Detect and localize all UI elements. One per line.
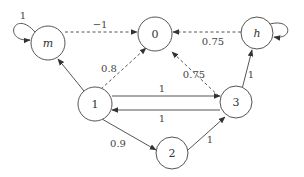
svg-text:1: 1 xyxy=(92,98,99,111)
edge-1-to-m xyxy=(58,59,84,91)
svg-text:2: 2 xyxy=(169,147,176,160)
node-1: 1 xyxy=(78,87,112,121)
svg-text:0: 0 xyxy=(152,28,159,41)
edge-label-1-to-2: 0.9 xyxy=(110,138,126,149)
svg-text:3: 3 xyxy=(233,96,240,109)
edge-label-1-to-0: 0.8 xyxy=(101,63,117,74)
svg-text:h: h xyxy=(253,27,260,40)
node-m: m xyxy=(31,26,65,60)
node-0: 0 xyxy=(138,17,172,51)
node-3: 3 xyxy=(220,86,252,118)
svg-text:m: m xyxy=(43,37,53,50)
edge-label-3-to-1: 1 xyxy=(159,113,165,124)
edge-label-3-to-0: 0.75 xyxy=(183,69,205,80)
edge-label-2-to-3: 1 xyxy=(207,134,213,145)
edge-label-3-to-h: 1 xyxy=(248,69,254,80)
edge-label-h-to-0: 0.75 xyxy=(202,36,224,47)
edge-label-m-self: 1 xyxy=(20,10,26,21)
edge-label-1-to-3: 1 xyxy=(159,83,165,94)
node-2: 2 xyxy=(156,137,188,169)
state-graph: 1 −1 0.75 0.8 0.75 1 1 1 0.9 1 m 0 h 1 3… xyxy=(0,0,304,177)
node-h: h xyxy=(241,17,273,49)
edge-label-m-to-0: −1 xyxy=(93,19,108,30)
